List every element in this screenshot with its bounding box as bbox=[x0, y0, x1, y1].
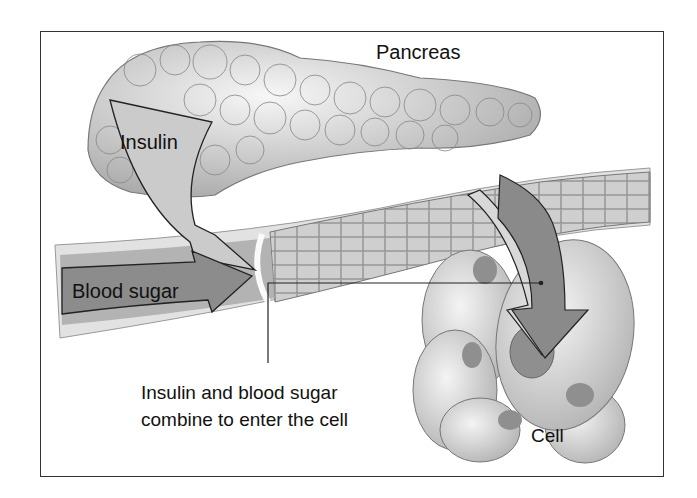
combine-caption: Insulin and blood sugar combine to enter… bbox=[141, 379, 348, 433]
pancreas-label: Pancreas bbox=[376, 42, 461, 62]
combine-caption-line2: combine to enter the cell bbox=[141, 406, 348, 433]
combine-caption-line1: Insulin and blood sugar bbox=[141, 379, 348, 406]
illustration bbox=[0, 0, 697, 498]
insulin-label: Insulin bbox=[120, 132, 178, 152]
cell-label: Cell bbox=[531, 426, 564, 445]
blood-sugar-label: Blood sugar bbox=[72, 281, 179, 301]
